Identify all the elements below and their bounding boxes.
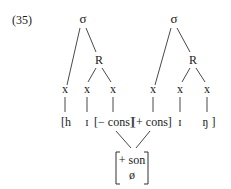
shared-feature-matrix: + son ø [116,131,150,184]
right-sigma-node: σ [170,11,177,26]
right-x-slot-3: x [204,82,210,96]
syllable-tree-diagram: (35) σ R x x x [h ɪ [− cons] σ R x x x [… [0,0,231,189]
right-segment-plus-cons: [+ cons] [132,115,172,129]
feature-null: ø [129,168,135,182]
left-segment-h: [h [61,115,71,129]
left-link-to-shared-node [116,131,131,148]
left-segment-minus-cons: [− cons] [94,115,134,129]
right-rhyme-coda-branch [196,68,205,82]
right-sigma-rhyme-branch [177,28,190,52]
left-x-slot-2: x [84,82,90,96]
left-sigma-node: σ [79,11,86,26]
left-x-slot-1: x [62,82,68,96]
right-segment-i: ɪ [178,115,181,129]
right-sigma-onset-branch [155,28,171,85]
right-rhyme-nucleus-branch [182,68,190,82]
left-rhyme-nucleus-branch [88,68,96,82]
right-rhyme-node: R [189,53,197,67]
right-syllable-tree: σ R x x x [+ cons] ɪ ŋ ] [132,11,215,129]
example-number: (35) [12,13,32,27]
right-segment-eng: ŋ ] [203,115,216,129]
right-x-slot-2: x [177,82,183,96]
right-link-to-shared-node [136,131,150,148]
right-x-slot-1: x [150,82,156,96]
left-rhyme-coda-branch [102,68,111,82]
left-x-slot-3: x [110,82,116,96]
feature-plus-son: + son [119,153,145,167]
left-sigma-onset-branch [67,28,80,85]
left-sigma-rhyme-branch [86,28,96,52]
left-segment-i: ɪ [85,115,88,129]
left-syllable-tree: σ R x x x [h ɪ [− cons] [61,11,134,129]
left-rhyme-node: R [95,53,103,67]
